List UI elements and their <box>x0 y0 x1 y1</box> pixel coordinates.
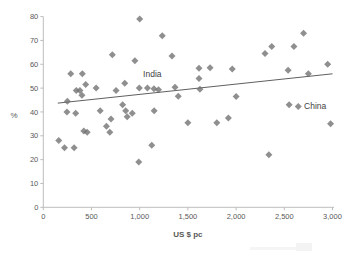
data-point <box>82 81 89 88</box>
data-point <box>168 52 175 59</box>
data-point <box>61 144 68 151</box>
data-point <box>265 151 272 158</box>
data-point <box>285 67 292 74</box>
x-tick-label: 500 <box>85 212 98 221</box>
data-point <box>268 43 275 50</box>
data-point <box>144 85 151 92</box>
data-point <box>79 70 86 77</box>
data-point <box>55 137 62 144</box>
data-point <box>136 15 143 22</box>
scatter-chart: 0102030405060708005001,0001,5002,0002,50… <box>0 0 353 256</box>
data-point <box>93 85 100 92</box>
data-point <box>233 93 240 100</box>
data-point <box>290 43 297 50</box>
data-point <box>213 119 220 126</box>
y-tick-label: 10 <box>30 179 38 188</box>
y-tick-label: 20 <box>30 155 38 164</box>
data-point <box>64 98 71 105</box>
data-point <box>119 101 126 108</box>
y-tick-label: 50 <box>30 84 38 93</box>
data-point <box>300 30 307 37</box>
data-point <box>135 159 142 166</box>
data-point <box>136 85 143 92</box>
x-tick-label: 1,000 <box>130 212 149 221</box>
scatter-chart-screenshot: 0102030405060708005001,0001,5002,0002,50… <box>0 0 353 256</box>
data-point <box>207 64 214 71</box>
y-tick-label: 30 <box>30 131 38 140</box>
data-point <box>195 65 202 72</box>
data-point <box>175 93 182 100</box>
data-point <box>324 61 331 68</box>
data-point <box>113 87 120 94</box>
data-point <box>131 57 138 64</box>
annotation-china: China <box>304 101 326 111</box>
data-point <box>106 129 113 136</box>
data-point <box>103 123 110 130</box>
data-point <box>122 107 129 114</box>
y-tick-label: 60 <box>30 60 38 69</box>
faint-watermark-artifact <box>296 243 312 251</box>
data-point <box>72 110 79 117</box>
data-point <box>159 32 166 39</box>
x-tick-label: 3,000 <box>323 212 342 221</box>
data-point <box>67 70 74 77</box>
x-tick-label: 2,000 <box>227 212 246 221</box>
annotation-india: India <box>143 69 162 79</box>
data-point <box>97 107 104 114</box>
data-point <box>129 110 136 117</box>
data-point <box>63 108 70 115</box>
data-point <box>225 114 232 121</box>
data-point <box>262 50 269 57</box>
x-tick-label: 1,500 <box>179 212 198 221</box>
y-axis-title: % <box>10 111 17 120</box>
y-tick-label: 0 <box>34 203 38 212</box>
x-tick-label: 2,500 <box>275 212 294 221</box>
data-point <box>229 66 236 73</box>
data-point <box>107 116 114 123</box>
data-point <box>327 120 334 127</box>
x-axis-title: US $ pc <box>173 230 203 239</box>
data-point <box>286 101 293 108</box>
data-point <box>184 119 191 126</box>
data-point <box>151 107 158 114</box>
data-point <box>121 80 128 87</box>
data-point <box>196 86 203 93</box>
y-tick-label: 70 <box>30 36 38 45</box>
data-point <box>124 113 131 120</box>
y-tick-label: 40 <box>30 108 38 117</box>
data-point <box>171 84 178 91</box>
y-tick-label: 80 <box>30 12 38 21</box>
data-point <box>148 142 155 149</box>
data-point <box>71 144 78 151</box>
data-point <box>295 103 302 110</box>
data-point <box>109 51 116 58</box>
data-point <box>195 75 202 82</box>
x-tick-label: 0 <box>41 212 45 221</box>
